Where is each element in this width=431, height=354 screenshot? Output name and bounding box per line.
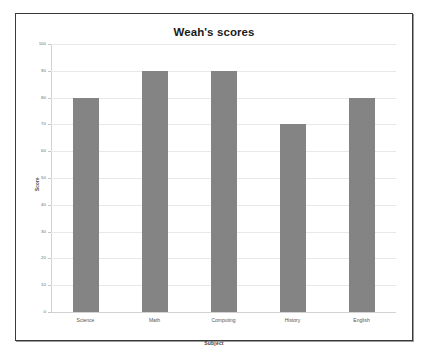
y-tick-label: 20 [41,256,46,260]
gridline [51,44,396,45]
y-tick-label: 70 [41,122,46,126]
bar-math[interactable] [142,71,168,312]
y-tick-label: 0 [44,310,46,314]
y-tick-mark [48,258,51,259]
x-tick-label-science: Science [77,318,95,323]
y-tick-mark [48,98,51,99]
y-tick-mark [48,151,51,152]
gridline [51,312,396,313]
bar-computing[interactable] [211,71,237,312]
bar-science[interactable] [73,98,99,312]
y-tick-label: 30 [41,229,46,233]
bar-history[interactable] [280,124,306,312]
y-tick-mark [48,44,51,45]
y-tick-mark [48,285,51,286]
plot-area: 1009080706050403020100 ScienceMathComput… [51,44,396,312]
y-tick-mark [48,232,51,233]
x-tick-label-english: English [353,318,369,323]
y-tick-label: 100 [39,42,46,46]
x-axis-title: Subject [16,340,412,346]
x-tick-label-math: Math [149,318,160,323]
y-tick-mark [48,205,51,206]
y-tick-label: 50 [41,176,46,180]
y-tick-label: 10 [41,283,46,287]
x-tick-label-history: History [285,318,301,323]
y-tick-label: 60 [41,149,46,153]
y-tick-mark [48,71,51,72]
y-tick-label: 80 [41,95,46,99]
y-tick-mark [48,312,51,313]
x-tick-label-computing: Computing [211,318,235,323]
y-tick-mark [48,124,51,125]
bar-english[interactable] [349,98,375,312]
chart-frame: Weah's scores Score 10090807060504030201… [15,13,413,341]
y-axis-title: Score [35,177,40,191]
y-tick-label: 90 [41,69,46,73]
y-tick-mark [48,178,51,179]
chart-title: Weah's scores [16,26,412,38]
y-tick-label: 40 [41,203,46,207]
